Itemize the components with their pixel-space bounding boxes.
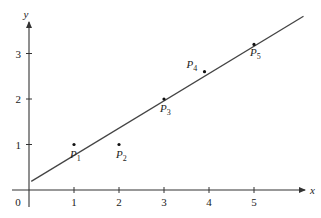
scatter-chart: P1P2P3P4P5 123451230xy [0,0,321,218]
data-point [117,143,120,146]
point-label: P1 [69,148,81,163]
data-point [203,70,206,73]
point-label: P5 [249,46,261,61]
origin-label: 0 [15,196,21,208]
data-points: P1P2P3P4P5 [69,43,261,163]
point-label: P2 [115,148,127,163]
x-tick-label: 4 [206,196,212,208]
x-axis-label: x [309,184,315,196]
y-axis-label: y [23,8,29,20]
y-tick-label: 3 [16,48,22,60]
data-point [72,143,75,146]
x-tick-label: 2 [116,196,122,208]
point-label: P3 [159,102,171,117]
x-tick-label: 1 [71,196,77,208]
data-point [162,97,165,100]
y-tick-label: 2 [16,93,22,105]
x-tick-label: 5 [251,196,257,208]
x-tick-label: 3 [161,196,167,208]
point-label: P4 [186,58,198,73]
y-tick-label: 1 [16,139,22,151]
axes [12,22,305,207]
